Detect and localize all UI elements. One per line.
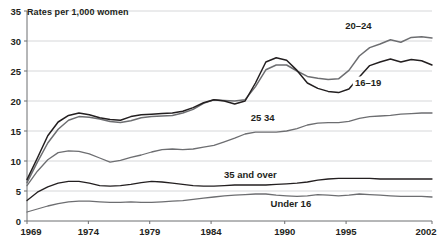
- series-label-35-and-over: 35 and over: [222, 168, 279, 179]
- series-label-16-19: 16–19: [353, 76, 383, 87]
- chart-container: Rates per 1,000 women 05101520253035 20–…: [0, 0, 439, 243]
- x-tick-label: 1969: [20, 226, 41, 237]
- series-label-20-24: 20–24: [343, 20, 373, 31]
- series-lines: [27, 37, 432, 212]
- y-tick-label: 30: [10, 36, 21, 47]
- y-tick-label: 0: [16, 216, 21, 227]
- chart-svg: [27, 11, 432, 221]
- x-tick-label: 1990: [274, 226, 295, 237]
- x-tick-label: 1995: [336, 226, 357, 237]
- y-tick-label: 25: [10, 66, 21, 77]
- y-tick-label: 20: [10, 96, 21, 107]
- x-tick-label: 1974: [78, 226, 99, 237]
- y-tick-label: 15: [10, 126, 21, 137]
- y-tick-label: 10: [10, 156, 21, 167]
- series-line: [27, 194, 432, 212]
- x-tick-label: 1979: [139, 226, 160, 237]
- y-tick-label: 5: [16, 186, 21, 197]
- chart-axis-caption: Rates per 1,000 women: [27, 7, 129, 17]
- series-label-under-16: Under 16: [269, 198, 314, 209]
- y-tick-label: 35: [10, 6, 21, 17]
- series-label-25-34: 25 34: [249, 111, 277, 122]
- x-tick-label: 2002: [415, 226, 436, 237]
- series-line: [27, 178, 432, 200]
- x-tick-label: 1984: [201, 226, 222, 237]
- plot-area: Rates per 1,000 women 05101520253035 20–…: [27, 11, 432, 221]
